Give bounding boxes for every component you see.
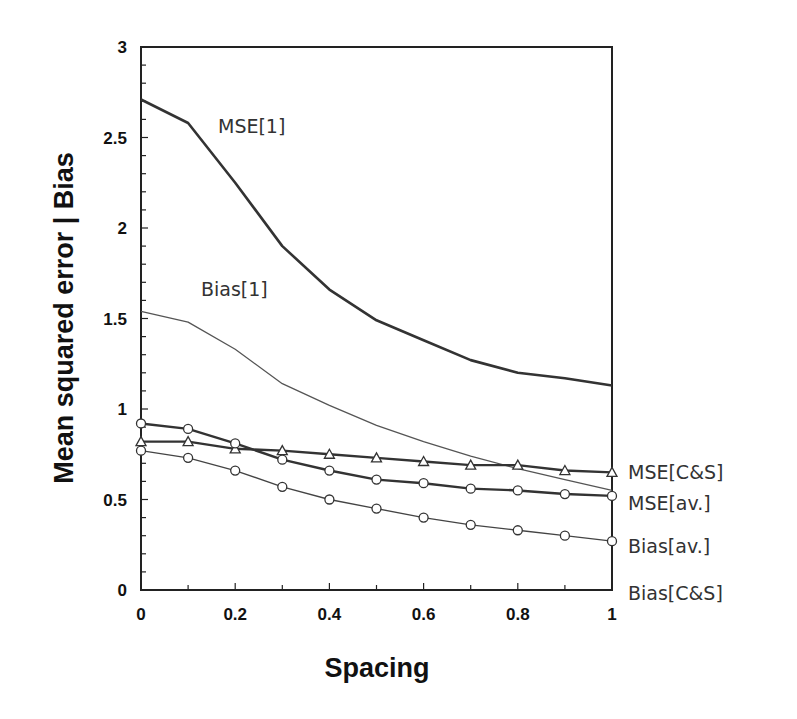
circle-marker — [137, 446, 146, 455]
circle-marker — [466, 484, 475, 493]
circle-marker — [137, 419, 146, 428]
series-markers — [136, 419, 617, 546]
series-line — [141, 451, 612, 542]
series-label-mse-av: MSE[av.] — [628, 492, 711, 514]
y-tick-label: 3 — [118, 38, 127, 57]
x-tick-label: 0.2 — [223, 605, 247, 624]
circle-marker — [560, 490, 569, 499]
y-tick-label: 2.5 — [103, 129, 127, 148]
circle-marker — [419, 513, 428, 522]
circle-marker — [608, 537, 617, 546]
circle-marker — [231, 439, 240, 448]
y-tick-label: 2 — [118, 219, 127, 238]
y-axis-title: Mean squared error | Bias — [49, 152, 79, 484]
axis-tick-labels: 00.20.40.60.8100.511.522.53 — [103, 38, 616, 624]
x-tick-label: 0.6 — [412, 605, 436, 624]
series-line — [141, 99, 612, 385]
circle-marker — [184, 424, 193, 433]
circle-marker — [184, 453, 193, 462]
x-axis-title: Spacing — [324, 653, 429, 683]
y-tick-label: 0.5 — [103, 491, 127, 510]
circle-marker — [278, 455, 287, 464]
circle-marker — [513, 526, 522, 535]
circle-marker — [608, 491, 617, 500]
circle-marker — [372, 475, 381, 484]
circle-marker — [419, 479, 428, 488]
y-tick-label: 0 — [118, 581, 127, 600]
x-tick-label: 0.8 — [506, 605, 530, 624]
circle-marker — [560, 531, 569, 540]
x-tick-label: 1 — [607, 605, 616, 624]
circle-marker — [231, 466, 240, 475]
circle-marker — [513, 486, 522, 495]
series-label-mse1: MSE[1] — [218, 115, 285, 137]
circle-marker — [372, 504, 381, 513]
circle-marker — [466, 520, 475, 529]
circle-marker — [325, 466, 334, 475]
y-tick-label: 1 — [118, 400, 127, 419]
x-tick-label: 0 — [136, 605, 145, 624]
circle-marker — [278, 482, 287, 491]
line-chart: 00.20.40.60.8100.511.522.53 MSE[1] Bias[… — [0, 0, 797, 719]
circle-marker — [325, 495, 334, 504]
series-label-bias-cs: Bias[C&S] — [628, 582, 723, 604]
series-label-bias-av: Bias[av.] — [628, 535, 710, 557]
series-label-mse-cs: MSE[C&S] — [628, 461, 723, 483]
y-tick-label: 1.5 — [103, 310, 127, 329]
x-tick-label: 0.4 — [318, 605, 342, 624]
series-label-bias1: Bias[1] — [201, 278, 268, 300]
